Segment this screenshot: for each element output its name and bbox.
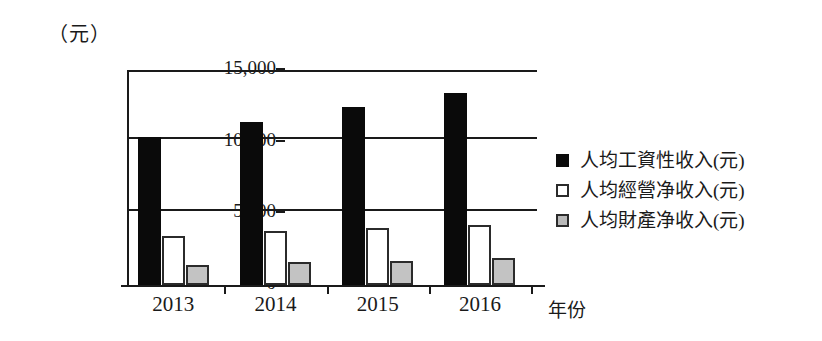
legend-item-2[interactable]: 人均經營净收入(元) bbox=[556, 175, 745, 205]
legend-swatch-icon-3 bbox=[556, 214, 569, 227]
bar-2014-series-3 bbox=[288, 262, 311, 285]
bar-groups bbox=[128, 70, 537, 285]
x-tick-label-2015: 2015 bbox=[327, 292, 429, 317]
bar-2015-series-1 bbox=[342, 107, 365, 285]
bar-2013-series-1 bbox=[138, 137, 161, 285]
bar-2015-series-2 bbox=[366, 228, 389, 285]
bar-2014-series-1 bbox=[240, 122, 263, 285]
legend-label-2: 人均經營净收入(元) bbox=[580, 181, 745, 200]
legend-label-3: 人均財產净收入(元) bbox=[580, 211, 745, 230]
bar-2016-series-3 bbox=[492, 258, 515, 285]
bar-group-2016 bbox=[444, 70, 515, 285]
bar-2015-series-3 bbox=[390, 261, 413, 285]
bar-group-2015 bbox=[342, 70, 413, 285]
bar-chart-figure: （元） 05,00010,00015,000 2013201420152016 … bbox=[0, 0, 822, 341]
legend-item-1[interactable]: 人均工資性收入(元) bbox=[556, 145, 745, 175]
x-tick-label-2013: 2013 bbox=[122, 292, 224, 317]
x-tick-mark-3 bbox=[531, 285, 533, 294]
x-axis-title: 年份 bbox=[548, 295, 586, 322]
bar-2013-series-2 bbox=[162, 236, 185, 285]
x-tick-label-2014: 2014 bbox=[224, 292, 326, 317]
x-tick-label-2016: 2016 bbox=[429, 292, 531, 317]
bar-group-2014 bbox=[240, 70, 311, 285]
x-axis-line bbox=[121, 285, 545, 287]
bar-2014-series-2 bbox=[264, 231, 287, 285]
bar-2016-series-1 bbox=[444, 93, 467, 285]
legend-swatch-icon-2 bbox=[556, 184, 569, 197]
bar-group-2013 bbox=[138, 70, 209, 285]
y-axis-unit-label: （元） bbox=[48, 18, 111, 47]
bar-2016-series-2 bbox=[468, 225, 491, 285]
legend-item-3[interactable]: 人均財產净收入(元) bbox=[556, 205, 745, 235]
legend-swatch-icon-1 bbox=[556, 154, 569, 167]
plot-area bbox=[128, 70, 537, 285]
legend-label-1: 人均工資性收入(元) bbox=[580, 151, 745, 170]
bar-2013-series-3 bbox=[186, 265, 209, 285]
chart-legend: 人均工資性收入(元)人均經營净收入(元)人均財產净收入(元) bbox=[556, 145, 745, 235]
